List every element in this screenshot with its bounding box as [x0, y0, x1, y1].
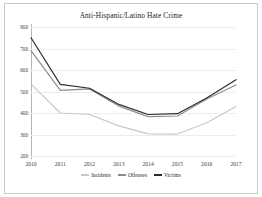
y-tick-label: 300: [2, 132, 28, 138]
legend-item-label: Offenses: [128, 172, 147, 178]
y-tick-label: 600: [2, 67, 28, 73]
legend-item-label: Incidents: [91, 172, 111, 178]
chart-figure: Anti-Hispanic/Latino Hate Crime 80070060…: [0, 0, 262, 197]
gridline: [31, 156, 236, 157]
series-line-victims: [31, 38, 236, 115]
x-tick-label: 2012: [75, 161, 105, 167]
legend-item[interactable]: Incidents: [81, 172, 111, 178]
x-tick-label: 2014: [133, 161, 163, 167]
x-tick-label: 2013: [104, 161, 134, 167]
x-tick-label: 2017: [221, 161, 251, 167]
plot-area: [31, 27, 236, 156]
legend-swatch-icon: [81, 174, 89, 175]
series-lines: [31, 27, 236, 156]
y-tick-label: 800: [2, 24, 28, 30]
y-tick-label: 400: [2, 110, 28, 116]
x-tick-label: 2011: [45, 161, 75, 167]
legend-swatch-icon: [118, 174, 126, 175]
y-tick-label: 200: [2, 153, 28, 159]
chart-title: Anti-Hispanic/Latino Hate Crime: [0, 11, 262, 20]
chart-legend: IncidentsOffensesVictims: [0, 172, 262, 178]
x-tick-label: 2015: [162, 161, 192, 167]
y-tick-label: 700: [2, 46, 28, 52]
x-tick-label: 2010: [16, 161, 46, 167]
legend-item[interactable]: Victims: [154, 172, 181, 178]
legend-item[interactable]: Offenses: [118, 172, 147, 178]
legend-swatch-icon: [154, 174, 162, 175]
x-tick-label: 2016: [192, 161, 222, 167]
series-line-offenses: [31, 51, 236, 117]
y-tick-label: 500: [2, 89, 28, 95]
legend-item-label: Victims: [164, 172, 181, 178]
